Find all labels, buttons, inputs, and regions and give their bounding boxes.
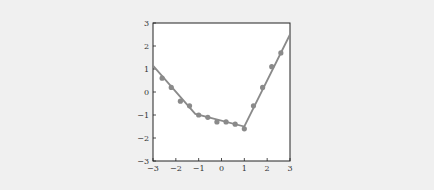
data-point <box>160 76 165 81</box>
data-point <box>187 103 192 108</box>
data-point <box>251 103 256 108</box>
x-tick-label: 2 <box>265 164 270 173</box>
y-tick-label: −3 <box>137 157 149 166</box>
data-point <box>196 112 201 117</box>
data-point <box>178 99 183 104</box>
y-tick-label: 0 <box>144 88 149 97</box>
y-tick-label: −1 <box>137 111 149 120</box>
chart: −3−2−101233210−1−2−3 <box>0 0 434 190</box>
y-tick-label: −2 <box>137 134 149 143</box>
y-tick-label: 1 <box>144 65 149 74</box>
data-point <box>278 50 283 55</box>
plot-area <box>153 23 290 161</box>
data-point <box>214 119 219 124</box>
data-point <box>260 85 265 90</box>
x-tick-label: 1 <box>242 164 247 173</box>
data-point <box>169 85 174 90</box>
data-point <box>223 119 228 124</box>
data-point <box>205 115 210 120</box>
x-tick-label: −2 <box>170 164 182 173</box>
data-point <box>269 64 274 69</box>
x-tick-label: 3 <box>287 164 292 173</box>
x-tick-label: −1 <box>193 164 205 173</box>
y-tick-label: 3 <box>144 19 149 28</box>
y-tick-label: 2 <box>144 42 149 51</box>
x-tick-label: 0 <box>219 164 224 173</box>
data-point <box>233 122 238 127</box>
data-point <box>242 126 247 131</box>
